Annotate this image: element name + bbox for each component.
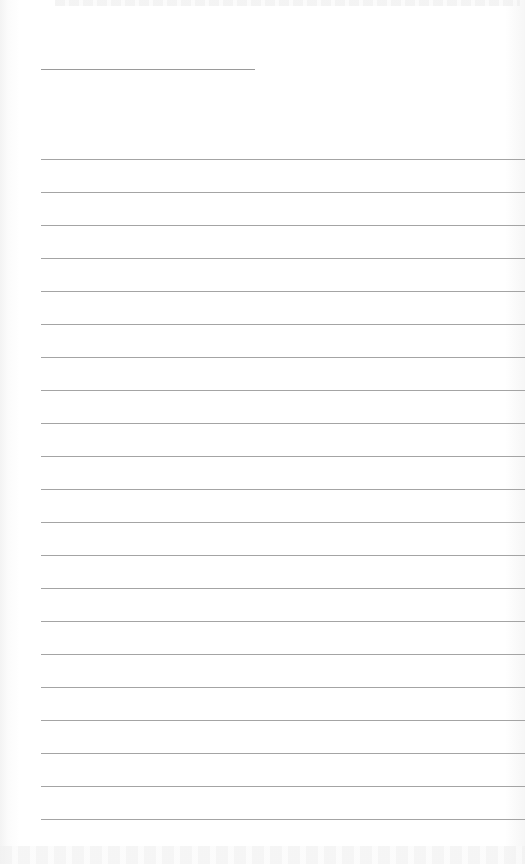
ruled-line <box>41 489 525 522</box>
ruled-line <box>41 786 525 819</box>
lined-page <box>0 0 525 864</box>
ruled-line <box>41 456 525 489</box>
ruled-line <box>41 225 525 258</box>
ruled-line <box>41 687 525 720</box>
ruled-line <box>41 720 525 753</box>
bleed-through-text-top <box>55 0 520 6</box>
ruled-line <box>41 357 525 390</box>
ruled-line <box>41 423 525 456</box>
ruled-line <box>41 753 525 786</box>
ruled-line <box>41 588 525 621</box>
bleed-through-text-bottom <box>0 846 525 864</box>
ruled-line <box>41 621 525 654</box>
ruled-line <box>41 555 525 588</box>
ruled-line <box>41 291 525 324</box>
ruled-lines <box>41 159 525 852</box>
ruled-line <box>41 192 525 225</box>
heading-line <box>41 69 255 70</box>
ruled-line <box>41 324 525 357</box>
ruled-line <box>41 159 525 192</box>
ruled-line <box>41 390 525 423</box>
ruled-line <box>41 258 525 291</box>
ruled-line <box>41 522 525 555</box>
ruled-line <box>41 654 525 687</box>
